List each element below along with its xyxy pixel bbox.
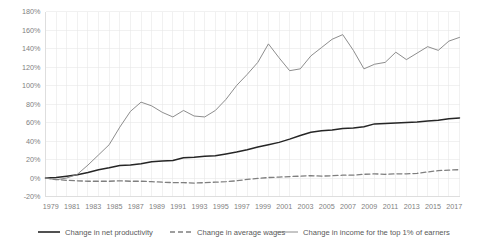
y-axis-tick-label: 0% [30,174,41,183]
data-series-group [46,35,460,183]
x-axis-tick-label: 2015 [425,202,441,211]
x-axis-tick-label: 2009 [361,202,377,211]
series-line-1 [46,118,460,178]
x-axis-tick-label: 1991 [170,202,186,211]
x-axis-tick-label: 1999 [255,202,271,211]
y-axis-tick-labels: 180%160%140%120%100%80%60%40%20%0%-20% [22,7,41,201]
y-axis-tick-label: -20% [24,192,41,201]
legend-label-2: Change in average wages [197,228,285,237]
x-axis-tick-label: 1981 [64,202,80,211]
y-axis-tick-label: 60% [26,118,41,127]
line-chart: 180%160%140%120%100%80%60%40%20%0%-20% 1… [0,0,484,242]
x-axis-tick-label: 1989 [149,202,165,211]
legend-label-1: Change in net productivity [65,228,153,237]
x-axis-tick-label: 2011 [383,202,398,211]
x-axis-tick-label: 1983 [85,202,101,211]
x-axis-tick-label: 2007 [340,202,356,211]
y-axis-tick-label: 180% [22,7,41,16]
x-axis-tick-label: 2005 [319,202,335,211]
x-axis-tick-label: 1979 [43,202,59,211]
chart-legend: Change in net productivityChange in aver… [38,228,450,237]
y-axis-tick-label: 20% [26,155,41,164]
x-axis-tick-label: 2001 [276,202,292,211]
x-axis-tick-label: 1987 [128,202,144,211]
y-axis-tick-label: 120% [22,63,41,72]
x-axis-tick-label: 2003 [298,202,314,211]
x-axis-tick-label: 1993 [191,202,207,211]
y-axis-tick-label: 40% [26,137,41,146]
series-line-3 [46,35,460,180]
y-axis-tick-label: 160% [22,26,41,35]
chart-container: 180%160%140%120%100%80%60%40%20%0%-20% 1… [0,0,484,242]
legend-label-3: Change in income for the top 1% of earne… [303,228,450,237]
x-axis-tick-label: 1997 [234,202,250,211]
y-axis-tick-label: 80% [26,100,41,109]
y-axis-tick-label: 100% [22,81,41,90]
x-axis-tick-label: 1995 [213,202,229,211]
x-axis-tick-label: 2017 [446,202,462,211]
series-line-2 [46,170,460,183]
x-axis-tick-label: 1985 [107,202,123,211]
x-axis-tick-labels: 1979198119831985198719891991199319951997… [43,202,462,211]
y-axis-tick-label: 140% [22,44,41,53]
x-axis-tick-label: 2013 [404,202,420,211]
